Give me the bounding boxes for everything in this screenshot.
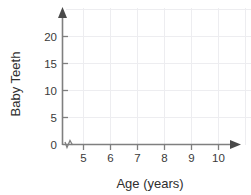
y-tick-label-20: 20 (44, 31, 57, 43)
y-tick-label-0: 0 (51, 139, 57, 151)
chart-background (0, 0, 251, 195)
x-tick-label-8: 8 (161, 152, 167, 164)
x-tick-label-7: 7 (134, 152, 140, 164)
x-tick-label-9: 9 (188, 152, 194, 164)
x-tick-label-10: 10 (212, 152, 225, 164)
x-tick-label-6: 6 (107, 152, 113, 164)
x-axis-title: Age (years) (116, 176, 183, 191)
y-axis-title: Baby Teeth (8, 52, 23, 117)
chart-container: 20 15 10 5 0 5 6 7 8 9 10 (0, 0, 251, 195)
baby-teeth-vs-age-plot: 20 15 10 5 0 5 6 7 8 9 10 (0, 0, 251, 195)
y-tick-label-10: 10 (44, 85, 57, 97)
x-tick-label-5: 5 (80, 152, 86, 164)
y-tick-label-5: 5 (51, 112, 57, 124)
y-tick-label-15: 15 (44, 58, 57, 70)
